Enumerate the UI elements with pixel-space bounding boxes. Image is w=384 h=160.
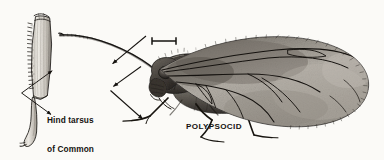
midleg-claw bbox=[218, 141, 224, 142]
tarsus-caption-line-2: of Common bbox=[47, 145, 94, 155]
tarsus-caption: Hind tarsus of Common Barklouse bbox=[47, 97, 94, 160]
tarsus-caption-line-1: Hind tarsus bbox=[47, 116, 94, 126]
specimen-caption: POLYPSOCID bbox=[186, 122, 242, 131]
foreleg-tarsus bbox=[123, 121, 132, 122]
illustration-figure: Hind tarsus of Common Barklouse POLYPSOC… bbox=[0, 0, 384, 160]
